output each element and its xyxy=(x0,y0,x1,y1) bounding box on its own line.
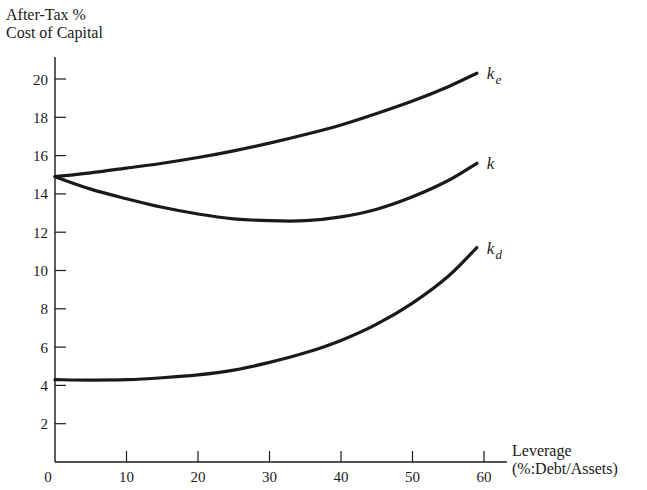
y-tick-label: 16 xyxy=(33,148,49,164)
y-tick-label: 12 xyxy=(33,225,48,241)
x-tick-label: 50 xyxy=(405,469,420,485)
y-tick-label: 6 xyxy=(41,340,49,356)
curve-k-e xyxy=(55,73,477,176)
y-tick-label: 2 xyxy=(41,416,49,432)
curve-k-d xyxy=(55,248,477,381)
x-axis-label-line1: Leverage xyxy=(512,442,618,460)
cost-of-capital-chart: 2468101214161820 0102030405060 kekkd xyxy=(0,0,647,490)
y-axis-label-line1: After-Tax % xyxy=(6,6,103,24)
y-tick-label: 20 xyxy=(33,72,48,88)
x-ticks: 0102030405060 xyxy=(44,451,491,485)
y-tick-label: 14 xyxy=(33,186,49,202)
curves xyxy=(55,73,477,380)
y-axis-label: After-Tax % Cost of Capital xyxy=(6,6,103,42)
x-tick-label: 40 xyxy=(334,469,349,485)
x-tick-label: 60 xyxy=(477,469,492,485)
curve-k xyxy=(55,163,477,221)
y-tick-label: 8 xyxy=(41,301,49,317)
y-ticks: 2468101214161820 xyxy=(33,72,66,433)
x-tick-label: 30 xyxy=(262,469,277,485)
x-tick-label: 10 xyxy=(119,469,134,485)
y-tick-label: 4 xyxy=(41,378,49,394)
curve-label-k: k xyxy=(487,154,495,173)
curve-label-k-e: ke xyxy=(487,64,502,87)
curve-labels: kekkd xyxy=(487,64,503,261)
y-tick-label: 10 xyxy=(33,263,48,279)
curve-label-k-d: kd xyxy=(487,239,503,262)
x-tick-label: 0 xyxy=(44,469,52,485)
x-axis-label: Leverage (%:Debt/Assets) xyxy=(512,442,618,478)
y-axis-label-line2: Cost of Capital xyxy=(6,24,103,42)
x-tick-label: 20 xyxy=(191,469,206,485)
y-tick-label: 18 xyxy=(33,110,48,126)
x-axis-label-line2: (%:Debt/Assets) xyxy=(512,460,618,478)
